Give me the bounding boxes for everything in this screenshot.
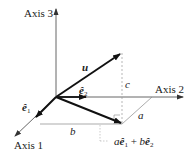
e1-label: ê1 (22, 101, 31, 115)
e1-unit-vector-arrow (36, 97, 56, 117)
vector-u-label: u (82, 61, 88, 73)
projection-label: aê1 + bê2 (114, 135, 154, 149)
axis-3-label: Axis 3 (24, 7, 54, 19)
component-a-label: a (138, 109, 144, 121)
component-b-label: b (70, 125, 76, 137)
projection-vector-arrow (56, 97, 121, 123)
a-guide-line (122, 97, 152, 124)
vector-decomposition-diagram: Axis 3 Axis 2 Axis 1 u ê2 ê1 c a b aê1 +… (0, 0, 195, 159)
axis-1-label: Axis 1 (14, 139, 43, 151)
component-c-label: c (125, 78, 130, 90)
axis-2-label: Axis 2 (155, 83, 184, 95)
e2-label: ê2 (79, 84, 88, 98)
